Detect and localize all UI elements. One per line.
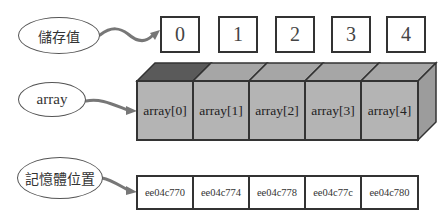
arrow-array xyxy=(86,100,137,115)
index-box-3: 3 xyxy=(331,16,371,53)
index-box-1: 1 xyxy=(218,16,258,53)
arrow-memory-location xyxy=(102,178,137,195)
label-memory-location: 記憶體位置 xyxy=(17,157,103,199)
label-stored-values-text: 儲存值 xyxy=(38,26,80,46)
memory-address-3: ee04c77c xyxy=(305,176,361,209)
array-element-3: array[3] xyxy=(305,81,361,140)
label-array: array xyxy=(18,82,86,117)
memory-address-0: ee04c770 xyxy=(137,176,193,209)
index-box-4: 4 xyxy=(386,16,426,53)
label-stored-values: 儲存值 xyxy=(18,17,100,54)
arrow-stored-values xyxy=(100,29,160,41)
memory-address-1: ee04c774 xyxy=(193,176,249,209)
cube-top-faces xyxy=(137,63,436,81)
memory-address-2: ee04c778 xyxy=(249,176,305,209)
index-box-2: 2 xyxy=(275,16,315,53)
array-element-1: array[1] xyxy=(193,81,249,140)
index-box-0: 0 xyxy=(160,16,200,53)
memory-address-4: ee04c780 xyxy=(361,176,418,209)
array-element-0: array[0] xyxy=(137,81,193,140)
label-memory-location-text: 記憶體位置 xyxy=(25,168,95,188)
array-element-2: array[2] xyxy=(249,81,305,140)
label-array-text: array xyxy=(37,91,68,108)
array-element-4: array[4] xyxy=(361,81,418,140)
